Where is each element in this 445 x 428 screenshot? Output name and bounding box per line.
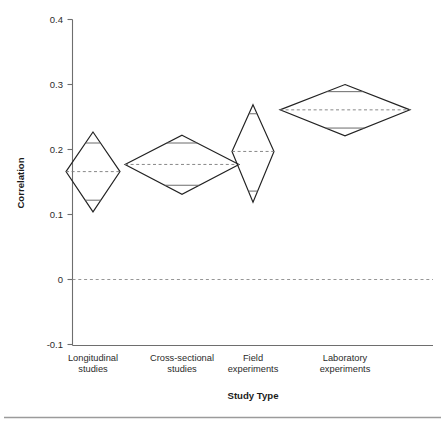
y-ticklabel--0.1: -0.1 bbox=[47, 339, 63, 350]
plot-background bbox=[0, 0, 445, 428]
correlation-diamond-plot: 0.4 0.3 0.2 0.1 0 -0.1 Correlation Longi… bbox=[0, 0, 445, 428]
y-ticklabel-0.1: 0.1 bbox=[50, 209, 63, 220]
x-label-cross-sectional-line1: Cross-sectional bbox=[150, 353, 214, 363]
figure-container: 0.4 0.3 0.2 0.1 0 -0.1 Correlation Longi… bbox=[0, 0, 445, 428]
x-axis-title: Study Type bbox=[228, 390, 279, 401]
x-label-field-line2: experiments bbox=[228, 364, 279, 374]
x-label-cross-sectional-line2: studies bbox=[167, 364, 197, 374]
y-axis-title: Correlation bbox=[15, 157, 26, 208]
y-ticklabel-0.2: 0.2 bbox=[50, 144, 63, 155]
y-ticklabel-0.4: 0.4 bbox=[50, 14, 63, 25]
x-label-field-line1: Field bbox=[243, 353, 263, 363]
y-ticklabel-0.3: 0.3 bbox=[50, 79, 63, 90]
x-label-longitudinal-line2: studies bbox=[78, 364, 108, 374]
x-label-laboratory-line1: Laboratory bbox=[323, 353, 368, 363]
x-label-longitudinal-line1: Longitudinal bbox=[68, 353, 118, 363]
x-label-laboratory-line2: experiments bbox=[320, 364, 371, 374]
y-ticklabel-0: 0 bbox=[58, 274, 63, 285]
